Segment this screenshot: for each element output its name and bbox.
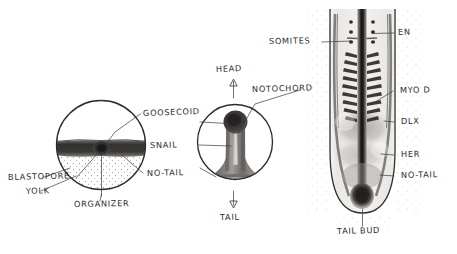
label-no-tail-gastrula: NO-TAIL [147,167,184,178]
label-goosecoid: GOOSECOID [143,106,200,118]
label-head: HEAD [216,63,242,74]
label-notochord: NOTOCHORD [252,82,313,94]
label-dlx: DLX [401,116,420,126]
label-somites: SOMITES [269,35,311,46]
label-en: EN [398,27,411,37]
figure-canvas: BLASTOPORE YOLK ORGANIZER GOOSECOID SNAI… [0,0,457,254]
label-myod: MYO D [400,84,431,95]
panel-gastrula-artwork [54,99,150,196]
label-tail-bud: TAIL BUD [337,225,380,236]
label-her: HER [401,149,420,159]
label-tail: TAIL [220,212,240,222]
label-no-tail-embryo: NO-TAIL [401,169,438,180]
label-blastopore: BLASTOPORE [8,170,70,182]
label-snail: SNAIL [150,140,178,150]
label-organizer: ORGANIZER [74,198,130,209]
label-yolk: YOLK [26,185,50,196]
